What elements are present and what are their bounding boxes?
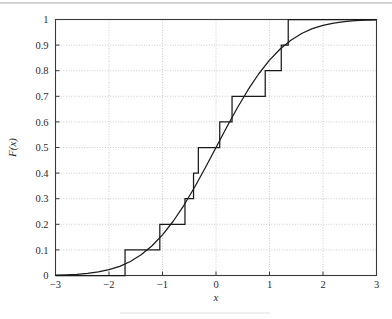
chart-figure: −3−2−10123 00.10.20.30.40.50.60.70.80.91…: [0, 0, 392, 319]
y-tick-label: 0.9: [35, 40, 48, 51]
theoretical-normal-cdf-curve: [56, 20, 377, 275]
x-tick-label: −3: [50, 279, 61, 290]
cdf-plot: −3−2−10123 00.10.20.30.40.50.60.70.80.91…: [0, 0, 392, 319]
x-axis-title: x: [213, 291, 219, 303]
y-tick-label: 0.8: [35, 65, 48, 76]
y-axis-title-text: F(x): [6, 138, 19, 158]
y-tick-label: 0.1: [35, 245, 48, 256]
top-scan-artifact: [0, 2, 392, 4]
y-tick-label: 0.4: [35, 168, 49, 179]
x-axis-title-text: x: [213, 291, 219, 303]
y-axis-tick-labels: 00.10.20.30.40.50.60.70.80.91: [35, 14, 49, 281]
y-tick-label: 1: [43, 14, 48, 25]
x-tick-label: 3: [374, 279, 379, 290]
x-axis-tick-labels: −3−2−10123: [50, 279, 379, 290]
y-tick-label: 0.5: [35, 142, 48, 153]
y-tick-label: 0.2: [35, 219, 48, 230]
y-tick-label: 0.6: [35, 117, 48, 128]
bottom-scan-artifact: [120, 312, 270, 314]
x-tick-label: 0: [213, 279, 218, 290]
y-tick-label: 0.7: [35, 91, 48, 102]
x-tick-label: −1: [157, 279, 168, 290]
x-tick-label: 1: [267, 279, 272, 290]
y-tick-label: 0: [43, 270, 48, 281]
y-tick-label: 0.3: [35, 193, 48, 204]
y-axis-title: F(x): [6, 138, 19, 158]
x-tick-label: −2: [103, 279, 114, 290]
x-tick-label: 2: [320, 279, 325, 290]
normal-cdf-path: [56, 20, 377, 275]
